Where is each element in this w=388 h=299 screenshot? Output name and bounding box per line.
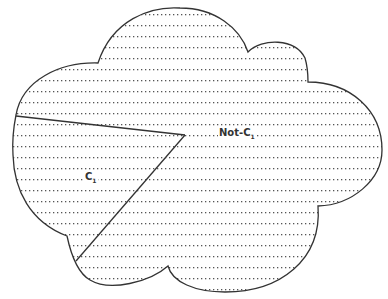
label-c1: C1 xyxy=(84,171,98,186)
label-not-c1: Not-C1 xyxy=(218,127,256,142)
cloud-shape xyxy=(0,0,388,299)
hatch-fill xyxy=(0,0,388,299)
cloud-diagram: C1 Not-C1 xyxy=(0,0,388,299)
